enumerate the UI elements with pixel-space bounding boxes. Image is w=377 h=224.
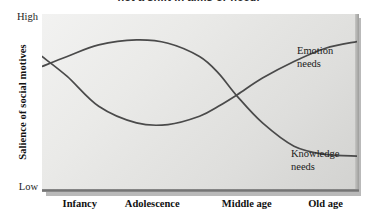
emotion-needs-annotation-line2: needs bbox=[297, 58, 333, 71]
emotion-needs-annotation: Emotion needs bbox=[297, 45, 333, 70]
x-tick-label-adolescence: Adolescence bbox=[125, 198, 180, 209]
y-axis-high-label: High bbox=[0, 11, 38, 22]
clipped-caption: not a shift in aims or need. bbox=[0, 0, 377, 7]
x-axis-label-row: InfancyAdolescenceMiddle ageOld age bbox=[42, 198, 357, 214]
clipped-caption-text: not a shift in aims or need. bbox=[0, 0, 377, 3]
y-axis-low-label: Low bbox=[0, 181, 38, 192]
x-tick-label-old-age: Old age bbox=[308, 198, 343, 209]
figure-container: not a shift in aims or need. High Low Sa… bbox=[0, 0, 377, 224]
knowledge-needs-annotation-line2: needs bbox=[291, 161, 339, 174]
x-tick-label-middle-age: Middle age bbox=[222, 198, 272, 209]
knowledge-needs-annotation-line1: Knowledge bbox=[291, 148, 339, 161]
emotion-needs-annotation-line1: Emotion bbox=[297, 45, 333, 58]
x-tick-label-infancy: Infancy bbox=[63, 198, 97, 209]
knowledge-needs-annotation: Knowledge needs bbox=[291, 148, 339, 173]
y-axis-title: Salience of social motives bbox=[17, 22, 31, 182]
